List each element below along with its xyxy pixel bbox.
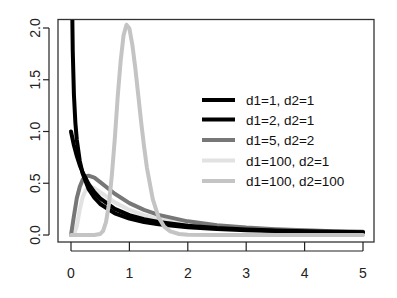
x-tick-label: 4 bbox=[301, 265, 309, 281]
x-axis: 012345 bbox=[67, 242, 367, 281]
x-tick-label: 0 bbox=[67, 265, 75, 281]
y-tick-label: 0.5 bbox=[27, 173, 43, 193]
y-tick-label: 0.0 bbox=[27, 225, 43, 245]
legend-label: d1=5, d2=2 bbox=[246, 133, 314, 148]
x-tick-label: 5 bbox=[359, 265, 367, 281]
legend-label: d1=100, d2=1 bbox=[246, 154, 329, 169]
legend-label: d1=2, d2=1 bbox=[246, 113, 314, 128]
x-tick-label: 1 bbox=[126, 265, 134, 281]
legend: d1=1, d2=1d1=2, d2=1d1=5, d2=2d1=100, d2… bbox=[202, 93, 344, 189]
y-tick-label: 1.0 bbox=[27, 122, 43, 142]
y-axis: 0.00.51.01.52.0 bbox=[27, 18, 49, 245]
x-tick-label: 2 bbox=[184, 265, 192, 281]
y-tick-label: 1.5 bbox=[27, 70, 43, 90]
y-tick-label: 2.0 bbox=[27, 18, 43, 38]
legend-label: d1=100, d2=100 bbox=[246, 174, 344, 189]
f-distribution-chart: 0.00.51.01.52.0 012345 d1=1, d2=1d1=2, d… bbox=[0, 0, 397, 298]
x-tick-label: 3 bbox=[242, 265, 250, 281]
legend-label: d1=1, d2=1 bbox=[246, 93, 314, 108]
